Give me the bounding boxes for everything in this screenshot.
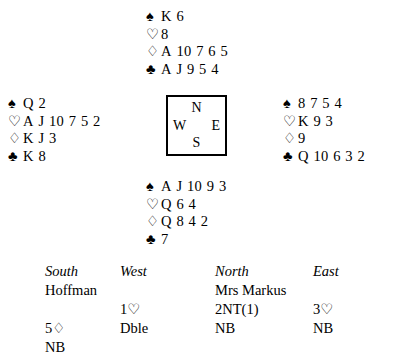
bid-west: 1♡ [120, 300, 140, 319]
north-spade-cards: K6 [161, 8, 184, 26]
west-heart-row: ♡ AJ10752 [8, 113, 101, 131]
compass-west-label: W [173, 119, 186, 133]
bidding-players-row: Hoffman Mrs Markus [0, 281, 404, 300]
bid-north: 2NT(1) [215, 300, 259, 319]
east-heart-row: ♡ K93 [283, 113, 365, 131]
south-heart-row: ♡ Q64 [146, 196, 227, 214]
heart-icon: ♡ [283, 113, 298, 131]
diamond-icon: ♢ [146, 213, 161, 231]
diamond-icon: ♢ [8, 130, 23, 148]
compass-south-label: S [193, 136, 201, 150]
bidding-table: South West North East Hoffman Mrs Markus… [0, 262, 404, 356]
east-spade-cards: 8754 [298, 95, 342, 113]
bidding-round-row: 1♡ 2NT(1) 3♡ [0, 300, 404, 319]
south-diamond-cards: Q842 [161, 213, 208, 231]
bidding-header-north: North [215, 262, 249, 281]
south-club-row: ♣ 7 [146, 231, 227, 249]
spade-icon: ♠ [283, 95, 298, 113]
bid-east: 3♡ [313, 300, 333, 319]
club-icon: ♣ [283, 148, 298, 166]
south-spade-row: ♠ AJ1093 [146, 178, 227, 196]
east-spade-row: ♠ 8754 [283, 95, 365, 113]
bidding-round-row: NB [0, 338, 404, 356]
spade-icon: ♠ [146, 8, 161, 26]
south-spade-cards: AJ1093 [161, 178, 227, 196]
spade-icon: ♠ [8, 95, 23, 113]
bidding-header-south: South [45, 262, 78, 281]
heart-icon: ♡ [146, 26, 161, 44]
east-hand: ♠ 8754 ♡ K93 ♢ 9 ♣ Q10632 [283, 95, 365, 165]
west-club-row: ♣ K8 [8, 148, 101, 166]
east-diamond-row: ♢ 9 [283, 130, 365, 148]
west-diamond-row: ♢ KJ3 [8, 130, 101, 148]
club-icon: ♣ [146, 231, 161, 249]
heart-icon: ♡ [8, 113, 23, 131]
compass-north-label: N [191, 101, 201, 115]
north-heart-cards: 8 [161, 26, 169, 44]
club-icon: ♣ [146, 61, 161, 79]
bidding-header-west: West [120, 262, 147, 281]
south-heart-cards: Q64 [161, 196, 196, 214]
east-club-cards: Q10632 [298, 148, 365, 166]
bidding-round-row: 5♢ Dble NB NB [0, 319, 404, 338]
bid-south: NB [45, 338, 65, 356]
spade-icon: ♠ [146, 178, 161, 196]
south-diamond-row: ♢ Q842 [146, 213, 227, 231]
west-diamond-cards: KJ3 [23, 130, 57, 148]
club-icon: ♣ [8, 148, 23, 166]
west-hand: ♠ Q2 ♡ AJ10752 ♢ KJ3 ♣ K8 [8, 95, 101, 165]
player-name-north: Mrs Markus [215, 281, 286, 300]
bidding-header-east: East [313, 262, 339, 281]
diamond-icon: ♢ [283, 130, 298, 148]
west-heart-cards: AJ10752 [23, 113, 101, 131]
north-spade-row: ♠ K6 [146, 8, 228, 26]
heart-icon: ♡ [146, 196, 161, 214]
bid-east: NB [313, 319, 333, 338]
west-spade-row: ♠ Q2 [8, 95, 101, 113]
north-diamond-row: ♢ A10765 [146, 43, 228, 61]
player-name-south: Hoffman [45, 281, 97, 300]
north-club-row: ♣ AJ954 [146, 61, 228, 79]
compass-box: N W E S [166, 95, 227, 156]
west-club-cards: K8 [23, 148, 46, 166]
south-club-cards: 7 [161, 231, 169, 249]
bid-west: Dble [120, 319, 148, 338]
bidding-header-row: South West North East [0, 262, 404, 281]
west-spade-cards: Q2 [23, 95, 46, 113]
north-hand: ♠ K6 ♡ 8 ♢ A10765 ♣ AJ954 [146, 8, 228, 78]
south-hand: ♠ AJ1093 ♡ Q64 ♢ Q842 ♣ 7 [146, 178, 227, 248]
east-club-row: ♣ Q10632 [283, 148, 365, 166]
east-heart-cards: K93 [298, 113, 333, 131]
compass-east-label: E [211, 119, 220, 133]
diamond-icon: ♢ [146, 43, 161, 61]
east-diamond-cards: 9 [298, 130, 306, 148]
north-heart-row: ♡ 8 [146, 26, 228, 44]
bid-north: NB [215, 319, 235, 338]
bid-south: 5♢ [45, 319, 65, 338]
north-diamond-cards: A10765 [161, 43, 228, 61]
north-club-cards: AJ954 [161, 61, 219, 79]
